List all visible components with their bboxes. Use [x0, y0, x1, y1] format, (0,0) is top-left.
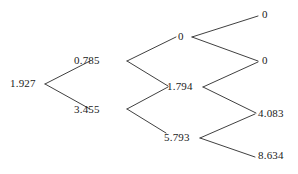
tree-edge: [203, 62, 258, 87]
tree-node-l2: 0: [262, 55, 268, 66]
tree-node-n4: 1.794: [167, 81, 193, 92]
tree-edge: [200, 114, 255, 138]
tree-edge: [192, 37, 258, 61]
tree-edge: [127, 61, 168, 86]
tree-node-root: 1.927: [10, 78, 36, 89]
tree-edge: [203, 87, 256, 113]
tree-node-l1: 0: [262, 9, 268, 20]
tree-edge: [192, 16, 258, 37]
tree-edge: [127, 37, 176, 61]
tree-edge: [200, 138, 255, 157]
tree-edge-layer: [0, 0, 298, 174]
tree-node-l4: 8.634: [258, 150, 284, 161]
tree-node-n3: 0: [178, 31, 184, 42]
tree-node-n5: 5.793: [164, 132, 190, 143]
binary-tree-diagram: 1.9270.7853.45501.7945.793004.0838.634: [0, 0, 298, 174]
tree-edge: [127, 87, 168, 109]
tree-node-n1: 0.785: [74, 55, 100, 66]
tree-node-n2: 3.455: [74, 104, 100, 115]
tree-edge: [127, 109, 166, 133]
tree-node-l3: 4.083: [258, 108, 284, 119]
